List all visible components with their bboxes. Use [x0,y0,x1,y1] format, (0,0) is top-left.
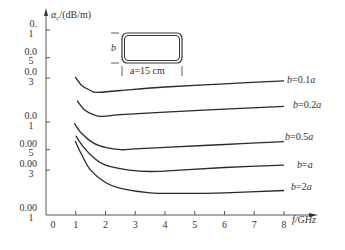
x-ticks: 012345678 [51,211,287,230]
y-tick-label: 0.005 [20,138,38,159]
x-tick-label: 8 [282,219,287,230]
y-tick-label: 0.01 [25,110,38,131]
x-tick-label: 7 [252,219,257,230]
curves [74,77,284,194]
curve-label: b=a [297,159,313,170]
curve-b-0-2a [77,101,284,117]
axes [44,8,318,217]
waveguide-inset: b a=15 cm [111,33,182,76]
x-tick-label: 5 [192,219,197,230]
x-tick-label: 0 [51,219,56,230]
width-label: a=15 cm [130,65,165,76]
y-tick-label: 0.1 [29,18,38,39]
height-label: b [111,42,116,53]
y-tick-label: 0.001 [20,202,38,223]
waveguide-outer-wall [122,33,182,63]
x-tick-label: 6 [222,219,227,230]
curve-labels: b=0.1ab=0.2ab=0.5ab=ab=2a [285,74,321,192]
y-tick-label: 0.03 [25,66,38,87]
curve-label: b=0.2a [293,99,321,110]
x-tick-label: 2 [103,219,108,230]
curve-b-0-1a [75,77,284,93]
waveguide-inner-wall [125,36,180,61]
curve-label: b=0.5a [285,131,313,142]
curve-label: b=2a [291,181,312,192]
attenuation-chart: 012345678 0.10.050.030.010.0050.0030.001… [0,0,345,250]
curve-b-a [76,136,284,172]
y-axis-title: αc/(dB/m) [51,9,91,22]
x-tick-label: 1 [73,219,78,230]
curve-b-2a [75,141,284,193]
x-tick-label: 3 [133,219,138,230]
curve-b-0-5a [74,123,284,150]
x-tick-label: 4 [163,219,168,230]
y-tick-label: 0.05 [25,46,38,67]
x-axis-title: f/GHz [292,214,316,225]
y-tick-label: 0.003 [20,158,38,179]
y-axis-arrow [44,8,48,16]
y-ticks: 0.10.050.030.010.0050.0030.001 [20,18,51,223]
curve-label: b=0.1a [287,74,315,85]
